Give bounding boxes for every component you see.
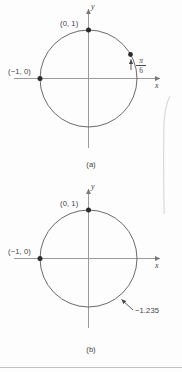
point-neg1-0-a	[38, 76, 43, 81]
panel-a-graphics	[14, 9, 160, 148]
point-0-1-b	[86, 208, 91, 213]
caption-panel-a: (a)	[0, 160, 182, 169]
label-point-neg1-0-a: (−1, 0)	[8, 67, 31, 76]
x-axis-label-b: x	[155, 261, 159, 270]
point-pi-over-6-a	[128, 52, 133, 57]
label-point-0-1-a: (0, 1)	[60, 19, 78, 28]
point-0-1-a	[86, 28, 91, 33]
label-point-0-1-b: (0, 1)	[60, 199, 78, 208]
caption-panel-b: (b)	[0, 345, 182, 354]
figure-sheet: (0, 1) (−1, 0) π 6 y x (a) (0, 1) (−1, 0…	[0, 0, 182, 372]
pi-over-6-numerator: π	[136, 57, 146, 65]
pointer-neg1235-b	[122, 300, 134, 311]
page-edge-artifact	[164, 96, 170, 214]
y-axis-label-a: y	[91, 2, 95, 11]
point-neg1-0-b	[38, 256, 43, 261]
pi-over-6-denominator: 6	[136, 67, 146, 74]
x-axis-label-a: x	[155, 81, 159, 90]
label-pi-over-6-a: π 6	[136, 57, 146, 74]
label-neg1235-b: −1.235	[135, 306, 159, 315]
y-axis-label-b: y	[91, 182, 95, 191]
label-point-neg1-0-b: (−1, 0)	[8, 247, 31, 256]
